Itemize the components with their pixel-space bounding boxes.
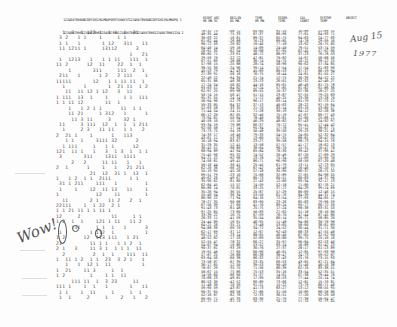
column-header-sidereal: SIDER.TIME bbox=[278, 17, 289, 24]
margin-line bbox=[22, 295, 47, 296]
signal-circle-2 bbox=[72, 225, 79, 232]
wow-annotation: Wow! bbox=[14, 215, 60, 248]
column-header-dec: DECLINDG MN bbox=[230, 17, 241, 24]
data-column: 65:85 87:37 89:37 76:23 19:40 14:69 56:9… bbox=[253, 30, 263, 302]
data-column: 78:32 73 48:35 44 30:63 22 61:62 44 90:7… bbox=[201, 30, 218, 302]
column-header-time: TIMEHR MN bbox=[255, 17, 264, 24]
date-annotation-line2: 1977 bbox=[353, 49, 377, 58]
column-header-cal: CALCONST bbox=[300, 17, 309, 24]
data-column: -68 72 -75 33 -16 81 -26 88 -20 82 -59 1… bbox=[228, 30, 240, 302]
intensity-grid: 1 3 1 122 1 1 1 1 21 3 2 1 1 1 1 1 1 1 1… bbox=[56, 30, 194, 300]
data-column: 91:15 86:96 65:75 89:85 77:18 24:40 97:9… bbox=[276, 30, 286, 302]
date-annotation-line1: Aug 15 bbox=[349, 30, 382, 44]
signal-circle-main bbox=[58, 220, 67, 244]
data-column: 21:69 31 64:93 71 24:77 83 29:59 16 26:7… bbox=[318, 30, 335, 302]
column-header-systemp: SYSTEMTEMP bbox=[320, 17, 331, 24]
margin-line bbox=[22, 278, 47, 279]
signal-circle-3 bbox=[95, 229, 102, 238]
printout-page: 1234567890ABCDEFGHIJKLMNOPQRSTUVWXYZ1234… bbox=[0, 0, 397, 327]
data-columns: 78:32 73 48:35 44 30:63 22 61:62 44 90:7… bbox=[198, 30, 344, 302]
channel-labels-row1: 1234567890ABCDEFGHIJKLMNOPQRSTUVWXYZ1234… bbox=[63, 19, 181, 23]
column-header-object: OBJECT bbox=[346, 17, 357, 21]
column-header-ra: RIGHT ASCHR MN SC bbox=[203, 17, 219, 24]
data-column: 16:89 77:61 94:63 74:78 13:92 79:51 62:4… bbox=[298, 30, 308, 302]
margin-line bbox=[15, 173, 45, 174]
margin-line bbox=[20, 250, 45, 251]
